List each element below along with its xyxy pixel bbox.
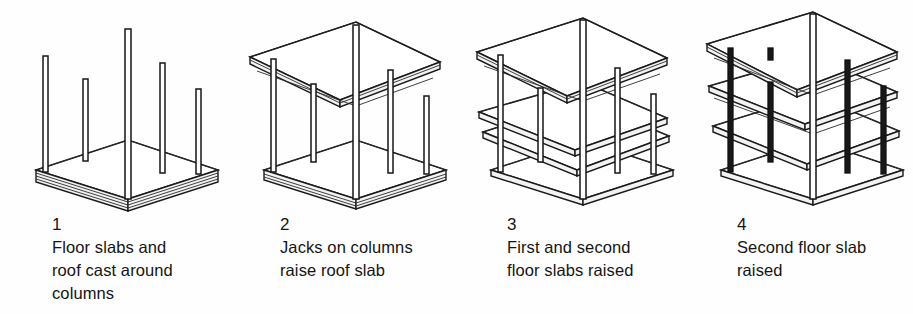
- lift-slab-step-3-diagram: [455, 0, 683, 212]
- caption-block-2: 2 Jacks on columns raise roof slab: [280, 214, 456, 282]
- roof-slab-3: [477, 18, 667, 103]
- caption-text: Jacks on columns raise roof slab: [280, 236, 456, 282]
- lift-slab-construction-figure: 1 Floor slabs and roof cast around colum…: [0, 0, 913, 314]
- lift-slab-step-4-diagram: [685, 0, 913, 212]
- caption-text: Floor slabs and roof cast around columns: [52, 236, 228, 305]
- caption-text: First and second floor slabs raised: [507, 236, 683, 282]
- caption-number: 1: [52, 214, 228, 235]
- caption-text: Second floor slab raised: [737, 236, 913, 282]
- caption-block-3: 3 First and second floor slabs raised: [507, 214, 683, 282]
- panel-step-4: 4 Second floor slab raised: [685, 0, 913, 314]
- caption-block-4: 4 Second floor slab raised: [737, 214, 913, 282]
- panel-step-2: 2 Jacks on columns raise roof slab: [228, 0, 456, 314]
- panel-step-3: 3 First and second floor slabs raised: [455, 0, 683, 314]
- caption-block-1: 1 Floor slabs and roof cast around colum…: [52, 214, 228, 305]
- lift-slab-step-1-diagram: [0, 0, 228, 212]
- caption-number: 2: [280, 214, 456, 235]
- caption-number: 4: [737, 214, 913, 235]
- roof-slab-2: [250, 22, 440, 107]
- lift-slab-step-2-diagram: [228, 0, 456, 212]
- panel-step-1: 1 Floor slabs and roof cast around colum…: [0, 0, 228, 314]
- caption-number: 3: [507, 214, 683, 235]
